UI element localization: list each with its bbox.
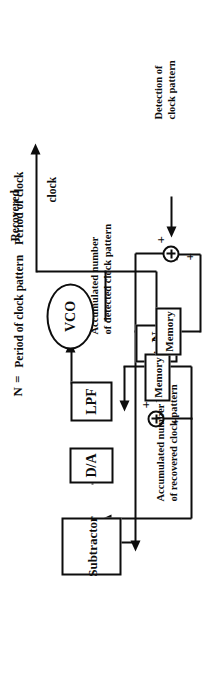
wire-recovered-clock [35, 152, 37, 272]
wire-memory-recovered-return [123, 366, 125, 401]
summing-junction-detected[interactable] [162, 245, 179, 262]
node-memory-detected[interactable]: Memory [155, 307, 181, 355]
sign-sum-bottom-a: + [153, 236, 166, 243]
sign-sum-top-a: + [138, 401, 151, 408]
arrowhead-recovered-clock [30, 143, 40, 154]
rotated-diagram-canvas: VCO LPF D/A Subtractor ÷ N Memory Memory… [0, 0, 212, 689]
formula-numerator: Period of clock pattern [12, 251, 25, 370]
node-subtractor-label: Subtractor [85, 516, 98, 577]
node-vco-label: VCO [63, 300, 77, 331]
node-vco[interactable]: VCO [46, 283, 94, 349]
formula-n: N = Period of clock pattern Period of cl… [8, 168, 26, 396]
label-detection-line1: Detection of [152, 65, 164, 119]
formula-denominator: Period of clock [11, 168, 24, 247]
node-da[interactable]: D/A [69, 447, 113, 483]
label-accumulated-detected-line1: Accumulated number [88, 236, 100, 334]
label-accumulated-recovered-line2: of recovered clock pattern [167, 384, 179, 501]
arrowhead-sum-bottom-input [166, 226, 176, 237]
arrowhead-sum-top-feedback [119, 400, 129, 411]
formula-equals: = [9, 375, 25, 382]
wire-lpf-to-vco-h [70, 349, 72, 383]
node-subtractor[interactable]: Subtractor [61, 517, 121, 575]
label-detection-line2: clock pattern [165, 60, 177, 119]
node-memory-recovered[interactable]: Memory [144, 353, 170, 401]
label-accumulated-detected-line2: of detected clock pattern [101, 223, 113, 334]
node-lpf-label: LPF [84, 388, 98, 414]
wire-sumtop-to-memory-h [190, 366, 192, 419]
wire-accumulated-recovered [190, 418, 192, 518]
wire-accumulated-detected [134, 331, 136, 543]
wire-detection-in [170, 196, 172, 229]
diagram-page: VCO LPF D/A Subtractor ÷ N Memory Memory… [0, 0, 212, 689]
wire-memory-detected-return [199, 254, 201, 332]
label-recovered-clock-line2: clock [45, 176, 58, 202]
wire-accumulated-recovered-riser [110, 517, 191, 519]
label-accumulated-recovered-line1: Accumulated number [154, 403, 166, 501]
formula-variable: N [9, 387, 25, 396]
wire-sumbottom-to-memory-h [134, 253, 136, 331]
node-da-label: D/A [84, 453, 98, 477]
sign-sum-bottom-b: + [182, 253, 195, 260]
formula-fraction: Period of clock pattern Period of clock [8, 168, 26, 370]
node-memory-detected-label: Memory [163, 311, 174, 351]
node-lpf[interactable]: LPF [70, 381, 112, 421]
node-memory-recovered-label: Memory [152, 357, 163, 397]
wire-memory-recovered-in [167, 365, 191, 367]
